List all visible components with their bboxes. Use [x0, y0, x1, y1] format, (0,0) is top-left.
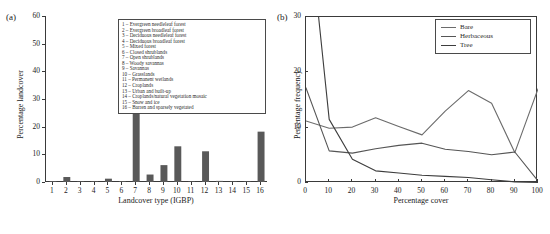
bar	[77, 181, 84, 182]
x-tick-label: 7	[133, 187, 137, 195]
x-tick	[421, 179, 422, 182]
x-tick-label: 100	[531, 187, 542, 195]
bar	[49, 181, 56, 182]
y-tick	[42, 182, 45, 183]
x-tick-label: 20	[348, 187, 356, 195]
x-tick-label: 80	[487, 187, 495, 195]
x-tick-label: 4	[92, 187, 96, 195]
x-tick	[260, 182, 261, 185]
y-tick-label: 60	[21, 12, 40, 20]
figure-root: (a) Percentage landcover 0102030405060 1…	[0, 0, 550, 234]
legend-line-swatch	[441, 36, 456, 37]
panel-a-x-axis-title: Landcover type (IGBP)	[45, 196, 267, 205]
panel-a-tag: (a)	[6, 12, 16, 22]
x-tick-label: 16	[256, 187, 264, 195]
legend-entry: 16 – Barren and sparsely vegetated	[122, 105, 262, 111]
x-tick	[218, 182, 219, 185]
x-tick-label: 0	[303, 187, 307, 195]
x-tick-label: 90	[510, 187, 518, 195]
x-tick-label: 50	[417, 187, 425, 195]
x-tick	[205, 182, 206, 185]
x-tick-label: 15	[242, 187, 250, 195]
x-tick-label: 13	[215, 187, 223, 195]
legend-entry: Bare	[441, 23, 525, 32]
y-tick	[305, 16, 308, 17]
y-tick	[42, 16, 45, 17]
x-tick-label: 5	[106, 187, 110, 195]
x-tick-label: 12	[201, 187, 209, 195]
y-tick	[305, 182, 308, 183]
y-tick	[42, 127, 45, 128]
x-tick	[514, 179, 515, 182]
y-tick-label: 0	[282, 178, 301, 186]
panel-a-legend: 1 – Evergreen needleleaf forest2 – Everg…	[118, 19, 266, 114]
x-tick-label: 40	[394, 187, 402, 195]
bar	[174, 146, 181, 182]
x-tick-label: 9	[161, 187, 165, 195]
x-tick-label: 8	[147, 187, 151, 195]
panel-b: (b) Percentage frequency 0102030 0102030…	[275, 0, 550, 234]
y-tick-label: 30	[282, 12, 301, 20]
y-tick-label: 10	[21, 151, 40, 159]
x-tick	[328, 179, 329, 182]
y-tick	[305, 127, 308, 128]
x-tick	[149, 182, 150, 185]
x-tick	[491, 179, 492, 182]
x-tick	[246, 182, 247, 185]
bar	[258, 132, 265, 182]
legend-label: Tree	[460, 41, 473, 50]
x-tick-label: 1	[50, 187, 54, 195]
panel-a-y-axis-title: Percentage landcover	[16, 50, 25, 160]
y-tick-label: 20	[282, 68, 301, 76]
x-tick	[163, 182, 164, 185]
x-tick	[177, 182, 178, 185]
bar	[105, 179, 112, 182]
x-tick	[121, 182, 122, 185]
x-tick-label: 3	[78, 187, 82, 195]
x-tick-label: 2	[64, 187, 68, 195]
x-tick	[398, 179, 399, 182]
y-tick-label: 20	[21, 123, 40, 131]
x-tick	[52, 182, 53, 185]
bar	[188, 181, 195, 182]
x-tick	[305, 179, 306, 182]
bar	[160, 165, 167, 182]
bar	[216, 181, 223, 182]
panel-b-y-axis-title: Percentage frequency	[293, 45, 302, 165]
y-tick-label: 50	[21, 40, 40, 48]
x-tick	[66, 182, 67, 185]
y-tick	[42, 99, 45, 100]
legend-line-swatch	[441, 27, 456, 28]
bar	[202, 151, 209, 182]
y-tick	[42, 44, 45, 45]
x-tick	[191, 182, 192, 185]
panel-b-x-axis-title: Percentage cover	[305, 196, 537, 205]
x-tick	[351, 179, 352, 182]
y-tick-label: 10	[282, 123, 301, 131]
x-tick-label: 30	[371, 187, 379, 195]
y-tick-label: 0	[21, 178, 40, 186]
x-tick	[444, 179, 445, 182]
x-tick-label: 6	[119, 187, 123, 195]
x-tick-label: 14	[229, 187, 237, 195]
y-tick	[42, 71, 45, 72]
x-tick	[94, 182, 95, 185]
x-tick-label: 60	[440, 187, 448, 195]
legend-entry: Herbaceous	[441, 32, 525, 41]
y-tick-label: 30	[21, 95, 40, 103]
legend-label: Bare	[460, 23, 473, 32]
x-tick-label: 10	[324, 187, 332, 195]
panel-b-legend: BareHerbaceousTree	[435, 19, 531, 54]
x-tick	[107, 182, 108, 185]
y-tick	[42, 154, 45, 155]
x-tick	[232, 182, 233, 185]
x-tick	[375, 179, 376, 182]
bar	[244, 181, 251, 182]
x-tick-label: 10	[173, 187, 181, 195]
legend-entry: Tree	[441, 41, 525, 50]
legend-line-swatch	[441, 45, 456, 46]
y-tick	[305, 71, 308, 72]
x-tick	[80, 182, 81, 185]
x-tick	[537, 179, 538, 182]
x-tick	[135, 182, 136, 185]
